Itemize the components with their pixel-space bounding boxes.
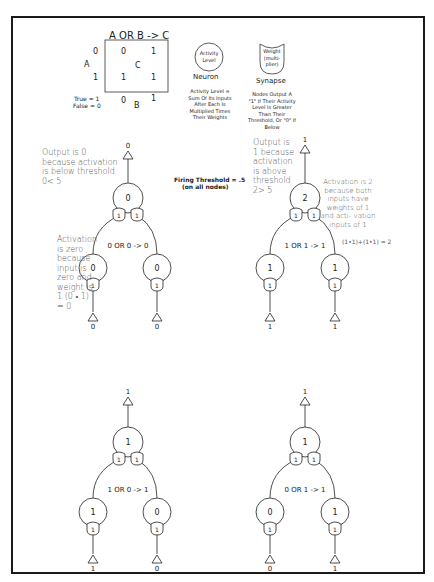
arrow-icon xyxy=(88,555,98,563)
arrow-icon xyxy=(330,313,340,321)
network-0-or-1: 11110 OR 1 -> 1010111 xyxy=(256,388,349,573)
neuron-legend-inside: Activity Level xyxy=(197,50,221,63)
annotation-activation-two-formula: (1•1)+(1•1) = 2 xyxy=(342,239,391,245)
arrow-icon xyxy=(300,397,310,405)
svg-text:1: 1 xyxy=(294,456,298,463)
output-neuron-value: 1 xyxy=(125,438,130,447)
svg-text:1: 1 xyxy=(155,282,159,289)
synapse-icon: 1 xyxy=(308,452,320,465)
output-value: 0 xyxy=(126,142,130,150)
threshold-line2: (on all nodes) xyxy=(182,184,229,190)
input-value: 1 xyxy=(333,565,337,573)
arrow-icon xyxy=(123,397,133,405)
input-neuron-value: 1 xyxy=(332,264,337,273)
svg-text:1: 1 xyxy=(117,212,121,219)
input-neuron-value: 1 xyxy=(332,508,337,517)
annotation-output-zero: Output is 0 because activation is below … xyxy=(42,148,122,186)
col-value-1: 1 xyxy=(151,95,156,103)
expression-label: 1 OR 1 -> 1 xyxy=(284,242,325,250)
col-value-0: 0 xyxy=(121,97,126,105)
synapse-icon: 1 xyxy=(290,452,302,465)
input-value: 0 xyxy=(155,565,159,573)
b-label: B xyxy=(134,102,140,110)
svg-text:1: 1 xyxy=(268,526,272,533)
svg-text:1: 1 xyxy=(294,212,298,219)
svg-text:1: 1 xyxy=(135,212,139,219)
output-value: 1 xyxy=(303,136,307,144)
synapse-icon: 1 xyxy=(131,208,143,221)
arrow-icon xyxy=(265,313,275,321)
svg-text:1: 1 xyxy=(312,212,316,219)
synapse-icon: 1 xyxy=(329,522,341,535)
output-value: 1 xyxy=(126,388,130,396)
output-neuron-value: 0 xyxy=(125,194,130,203)
truth-table-title: A OR B -> C xyxy=(109,31,169,41)
svg-text:1: 1 xyxy=(268,282,272,289)
arrow-icon xyxy=(300,145,310,153)
output-value: 1 xyxy=(303,388,307,396)
svg-text:1: 1 xyxy=(312,456,316,463)
expression-label: 1 OR 0 -> 1 xyxy=(107,486,148,494)
synapse-icon: 1 xyxy=(308,208,320,221)
annotation-activation-zero: Activation is zero , because input is ze… xyxy=(57,235,97,311)
synapse-description: Nodes Output A "1" If Their Activity Lev… xyxy=(248,91,296,130)
output-neuron-value: 1 xyxy=(302,438,307,447)
legend-false: False = 0 xyxy=(73,103,101,109)
synapse-icon: 1 xyxy=(113,208,125,221)
synapse-icon: 1 xyxy=(151,278,163,291)
arrow-icon xyxy=(88,313,98,321)
input-neuron-value: 0 xyxy=(154,508,159,517)
svg-text:1: 1 xyxy=(91,526,95,533)
row-value-1: 1 xyxy=(93,74,98,82)
synapse-label: Synapse xyxy=(256,78,286,85)
synapse-icon: 1 xyxy=(264,522,276,535)
neuron-label: Neuron xyxy=(193,74,218,81)
a-label: A xyxy=(84,61,89,69)
input-neuron-value: 0 xyxy=(154,264,159,273)
synapse-icon: 1 xyxy=(264,278,276,291)
svg-text:1: 1 xyxy=(333,282,337,289)
annotation-activation-two: Activation is 2 because both inputs have… xyxy=(320,178,376,229)
synapse-icon: 1 xyxy=(113,452,125,465)
cell-1-0: 1 xyxy=(121,74,126,82)
input-neuron-value: 0 xyxy=(267,508,272,517)
input-value: 0 xyxy=(155,323,159,331)
input-value: 0 xyxy=(268,565,272,573)
annotation-output-one: Output is 1 because activation is above … xyxy=(253,138,295,195)
cell-0-1: 1 xyxy=(151,48,156,56)
synapse-legend-inside: Weight (multi-plier) xyxy=(260,48,284,68)
expression-label: 0 OR 1 -> 1 xyxy=(284,486,325,494)
arrow-icon xyxy=(330,555,340,563)
expression-label: 0 OR 0 -> 0 xyxy=(107,242,148,250)
svg-text:1: 1 xyxy=(117,456,121,463)
input-value: 1 xyxy=(333,323,337,331)
output-neuron-value: 2 xyxy=(302,194,307,203)
input-value: 1 xyxy=(91,565,95,573)
cell-1-1: 1 xyxy=(151,74,156,82)
synapse-icon: 1 xyxy=(131,452,143,465)
c-label: C xyxy=(135,62,141,70)
svg-text:1: 1 xyxy=(155,526,159,533)
arrow-icon xyxy=(123,151,133,159)
synapse-icon: 1 xyxy=(329,278,341,291)
svg-text:1: 1 xyxy=(333,526,337,533)
input-neuron-value: 1 xyxy=(267,264,272,273)
synapse-icon: 1 xyxy=(87,522,99,535)
arrow-icon xyxy=(152,313,162,321)
input-value: 0 xyxy=(91,323,95,331)
arrow-icon xyxy=(265,555,275,563)
synapse-icon: 1 xyxy=(151,522,163,535)
cell-0-0: 0 xyxy=(121,48,126,56)
network-1-or-0: 11111 OR 0 -> 1111010 xyxy=(79,388,171,573)
neuron-description: Activity Level = Sum Of Its Inputs After… xyxy=(187,88,233,121)
svg-text:1: 1 xyxy=(135,456,139,463)
input-neuron-value: 1 xyxy=(90,508,95,517)
arrow-icon xyxy=(152,555,162,563)
synapse-icon: 1 xyxy=(290,208,302,221)
input-value: 1 xyxy=(268,323,272,331)
row-value-0: 0 xyxy=(93,48,98,56)
